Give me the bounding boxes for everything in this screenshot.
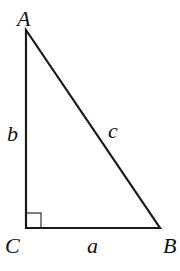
- vertex-label-b: B: [163, 233, 176, 258]
- side-label-a: a: [87, 233, 98, 258]
- side-label-b: b: [7, 121, 18, 146]
- triangle-outline: [26, 30, 160, 228]
- right-triangle-diagram: A C B b c a: [0, 0, 180, 271]
- vertex-label-c: C: [5, 233, 20, 258]
- side-label-c: c: [108, 118, 118, 143]
- right-angle-marker: [26, 213, 41, 228]
- vertex-label-a: A: [15, 6, 31, 31]
